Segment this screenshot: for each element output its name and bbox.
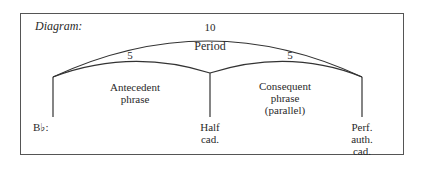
consequent-arc (210, 61, 362, 77)
consequent-count: 5 (283, 49, 297, 61)
antecedent-label: Antecedent phrase (95, 81, 175, 105)
perfect-authentic-cadence-label: Perf. auth. cad. (342, 121, 382, 157)
period-label: Period (185, 40, 235, 52)
period-count: 10 (200, 21, 220, 33)
key-label: B♭: (33, 121, 49, 133)
antecedent-count: 5 (123, 49, 137, 61)
antecedent-arc (53, 61, 210, 77)
consequent-label: Consequent phrase (parallel) (245, 80, 325, 116)
diagram-title: Diagram: (35, 20, 82, 32)
half-cadence-label: Half cad. (190, 121, 230, 145)
